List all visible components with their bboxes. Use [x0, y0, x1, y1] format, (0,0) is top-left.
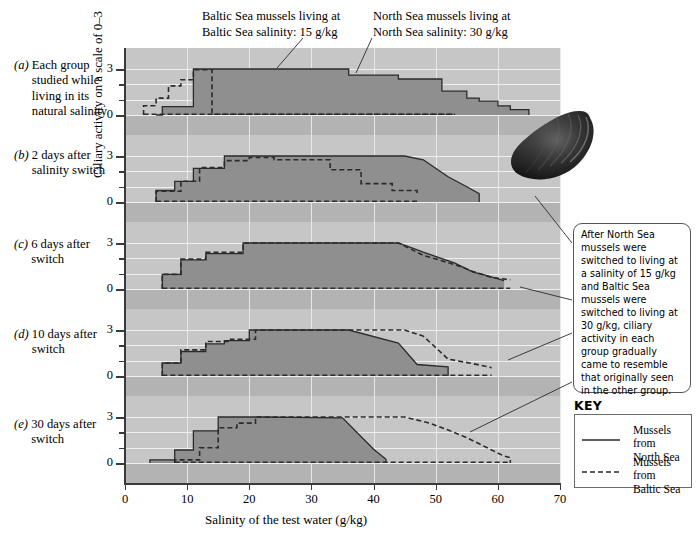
x-tick	[560, 483, 561, 490]
y-tick	[119, 187, 125, 189]
area-fill-north-sea	[150, 417, 386, 463]
panel-caption-text: 6 days after switch	[31, 237, 113, 268]
panel-tag: (d)	[14, 327, 29, 341]
panel-caption-c: (c) 6 days after switch	[14, 237, 114, 268]
x-tick	[374, 483, 375, 490]
y-tick	[116, 289, 125, 291]
y-tick	[116, 417, 125, 419]
x-axis-title: Salinity of the test water (g/kg)	[205, 512, 367, 528]
baltic-callout: Baltic Sea mussels living at Baltic Sea …	[202, 8, 340, 41]
y-tick	[116, 463, 125, 465]
panel-caption-a: (a) Each group studied while living in i…	[14, 58, 114, 119]
y-tick	[116, 202, 125, 204]
y-tick	[119, 448, 125, 450]
y-tick-label: 0	[99, 455, 113, 470]
y-tick	[119, 171, 125, 173]
x-tick-label: 20	[234, 492, 264, 507]
x-tick-label: 40	[359, 492, 389, 507]
key-label-north-sea-line1: Mussels from	[633, 424, 695, 451]
dashed-line-icon	[581, 467, 621, 477]
y-tick	[116, 330, 125, 332]
key-title: KEY	[574, 398, 602, 413]
x-tick	[436, 483, 437, 490]
x-tick	[311, 483, 312, 490]
panel-caption-b: (b) 2 days after salinity switch	[14, 148, 114, 179]
side-note-box: After North Sea mussels were switched to…	[573, 223, 691, 393]
panel-caption-text: 2 days after salinity switch	[32, 148, 114, 179]
y-tick-label: 0	[99, 194, 113, 209]
y-tick	[119, 432, 125, 434]
northsea-callout-line1: North Sea mussels living at	[373, 8, 511, 24]
y-tick	[119, 258, 125, 260]
side-note-text: After North Sea mussels were switched to…	[581, 229, 678, 396]
x-tick	[249, 483, 250, 490]
x-tick-label: 0	[110, 492, 140, 507]
northsea-callout-line2: North Sea salinity: 30 g/kg	[373, 24, 511, 40]
y-tick	[116, 115, 125, 117]
panel-caption-d: (d) 10 days after switch	[14, 327, 114, 358]
key-box: Mussels from North Sea Mussels from Balt…	[574, 414, 692, 488]
area-fill-north-sea	[156, 69, 529, 115]
x-tick-label: 30	[296, 492, 326, 507]
x-tick-label: 50	[421, 492, 451, 507]
x-tick	[187, 483, 188, 490]
y-tick	[116, 243, 125, 245]
y-tick	[119, 100, 125, 102]
key-label-baltic-sea-line1: Mussels from	[633, 456, 695, 483]
y-tick-label: 0	[99, 281, 113, 296]
y-tick	[119, 84, 125, 86]
key-label-baltic-sea: Mussels from Baltic Sea	[633, 456, 695, 496]
y-tick	[119, 345, 125, 347]
panel-caption-text: Each group studied while living in its n…	[32, 58, 114, 119]
panel-caption-text: 30 days after switch	[31, 417, 113, 448]
x-tick-label: 10	[172, 492, 202, 507]
y-tick	[119, 274, 125, 276]
y-tick	[116, 376, 125, 378]
y-tick	[119, 361, 125, 363]
figure-root: 0102030405060700303030303 Ciliary activi…	[0, 0, 699, 537]
panel-tag: (b)	[14, 148, 29, 162]
x-tick-label: 60	[483, 492, 513, 507]
baltic-callout-line1: Baltic Sea mussels living at	[202, 8, 340, 24]
area-fill-north-sea	[162, 243, 504, 289]
area-fill-north-sea	[156, 156, 479, 202]
panel-tag: (c)	[14, 237, 28, 251]
panel-tag: (e)	[14, 417, 28, 431]
y-tick	[116, 156, 125, 158]
northsea-callout: North Sea mussels living at North Sea sa…	[373, 8, 511, 41]
panel-tag: (a)	[14, 58, 29, 72]
y-tick-label: 0	[99, 368, 113, 383]
area-fill-north-sea	[162, 330, 448, 376]
panel-caption-e: (e) 30 days after switch	[14, 417, 114, 448]
baltic-callout-line2: Baltic Sea salinity: 15 g/kg	[202, 24, 340, 40]
x-tick-label: 70	[545, 492, 575, 507]
x-tick	[125, 483, 126, 490]
key-label-baltic-sea-line2: Baltic Sea	[633, 483, 695, 496]
solid-line-icon	[581, 435, 621, 445]
x-tick	[498, 483, 499, 490]
y-tick	[116, 69, 125, 71]
mussel-shell-photo	[506, 108, 598, 186]
panel-caption-text: 10 days after switch	[32, 327, 114, 358]
